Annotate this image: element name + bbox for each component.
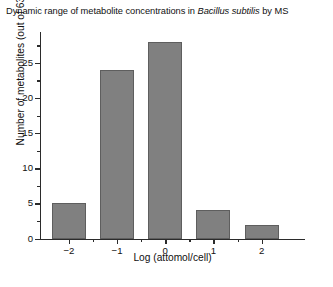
chart-title: Dynamic range of metabolite concentratio… [6,5,331,17]
y-axis-tick [35,133,40,134]
y-axis-minor-tick [37,116,40,117]
chart-title-species: Bacillus subtilis [198,6,260,16]
x-axis-minor-tick [238,239,239,242]
y-axis-line [40,32,41,240]
bar [245,225,279,239]
y-axis-minor-tick [37,186,40,187]
x-axis-tick [262,239,263,244]
y-axis-tick [35,239,40,240]
y-axis-tick-label: 10 [22,164,33,174]
x-axis-tick [165,239,166,244]
chart-title-prefix: Dynamic range of metabolite concentratio… [6,6,198,16]
x-axis-tick [117,239,118,244]
x-axis-minor-tick [189,239,190,242]
y-axis-tick [35,63,40,64]
x-axis-minor-tick [141,239,142,242]
y-axis-minor-tick [37,151,40,152]
y-axis-tick [35,98,40,99]
x-axis-line [40,239,305,240]
plot-area: 0510152025 −2−1012 [40,32,305,240]
y-axis-tick [35,168,40,169]
bar [52,203,86,238]
y-axis-title: Number of metabolites (out of 63 quantif… [15,0,27,151]
y-axis-tick-label: 0 [28,234,33,244]
bar [148,42,182,239]
x-axis-tick [213,239,214,244]
x-axis-title: Log (attomol/cell) [40,252,305,264]
y-axis-tick [35,203,40,204]
y-axis-minor-tick [37,221,40,222]
y-axis-minor-tick [37,80,40,81]
bar [196,210,230,238]
x-axis-minor-tick [93,239,94,242]
y-axis-minor-tick [37,45,40,46]
bar [100,70,134,239]
y-axis-tick-label: 5 [28,199,33,209]
x-axis-tick [69,239,70,244]
chart-figure: Dynamic range of metabolite concentratio… [0,0,333,287]
chart-title-suffix: by MS [260,6,289,16]
